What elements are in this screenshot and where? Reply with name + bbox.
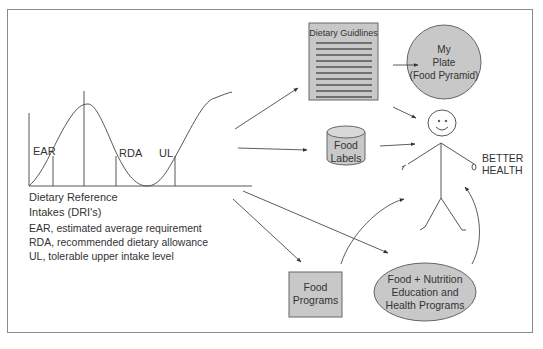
arrow-labels-to-person xyxy=(380,144,415,146)
better-health-line1: BETTER xyxy=(482,152,523,164)
dri-title-line2: Intakes (DRI's) xyxy=(29,206,101,218)
my-plate-label: My Plate (Food Pyramid) xyxy=(407,43,481,82)
ul-label: UL xyxy=(159,147,173,160)
food-programs-line2: Programs xyxy=(289,294,342,307)
dietary-guidelines-label: Dietary Guidlines xyxy=(309,27,378,40)
dri-curve xyxy=(29,92,232,186)
ear-label: EAR xyxy=(33,145,56,158)
food-programs-label: Food Programs xyxy=(289,281,342,307)
my-plate-line1: My xyxy=(407,43,481,56)
arrow-foodprog-to-person xyxy=(341,199,404,264)
dri-legend-ear: EAR, estimated average requirement xyxy=(29,222,202,234)
my-plate-line3: (Food Pyramid) xyxy=(407,69,481,82)
arrow-guidelines-to-person xyxy=(393,107,416,118)
food-programs-line1: Food xyxy=(289,281,342,294)
food-labels-label: Food Labels xyxy=(327,139,365,165)
dri-legend-rda: RDA, recommended dietary allowance xyxy=(29,236,208,248)
dri-curve-chart xyxy=(29,91,252,186)
arrow-to-education xyxy=(243,191,388,253)
education-line1: Food + Nutrition xyxy=(374,273,476,286)
arrow-to-labels xyxy=(238,148,307,150)
stick-figure xyxy=(402,110,476,230)
better-health-label: BETTER HEALTH xyxy=(482,152,523,176)
dri-legend-ul: UL, tolerable upper intake level xyxy=(29,250,174,262)
arrow-education-to-person xyxy=(465,187,479,264)
rda-label: RDA xyxy=(119,147,142,160)
head xyxy=(428,110,456,136)
education-line3: Health Programs xyxy=(374,299,476,312)
education-line2: Education and xyxy=(374,286,476,299)
food-labels-line2: Labels xyxy=(327,152,365,165)
arrow-to-guidelines xyxy=(235,88,298,129)
better-health-line2: HEALTH xyxy=(482,164,523,176)
my-plate-line2: Plate xyxy=(407,56,481,69)
food-labels-line1: Food xyxy=(327,139,365,152)
arrow-to-food-programs xyxy=(233,199,301,262)
education-programs-label: Food + Nutrition Education and Health Pr… xyxy=(374,273,476,312)
dri-title-line1: Dietary Reference xyxy=(29,191,118,203)
